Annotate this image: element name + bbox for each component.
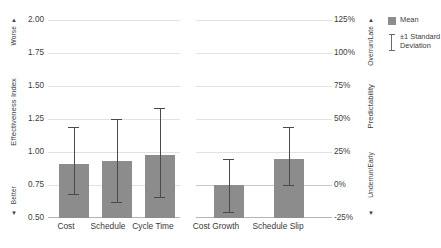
left-tick-0-50: 0.50: [14, 213, 44, 222]
left-tick-0-75: 0.75: [14, 180, 44, 189]
left-tick-1-00: 1.00: [14, 147, 44, 156]
errorbar-cap-top-cost-growth: [223, 159, 234, 160]
right-tick-75: 75%: [334, 81, 368, 90]
errorbar-cap-top-schedule: [111, 119, 122, 120]
errorbar-line-cost: [74, 127, 75, 194]
errorbar-line-cost-growth: [229, 159, 230, 213]
legend-item-std-deviation: ±1 Standard Deviation: [388, 33, 441, 53]
gridline-25pct: [196, 152, 332, 153]
gridline-75pct: [196, 86, 332, 87]
right-tick-100: 100%: [334, 48, 368, 57]
errorbar-line-cycle-time: [160, 108, 161, 197]
right-axis-group: 125% 100% 75% 50% 25% 0% -25% ▲ Overrun/…: [334, 0, 388, 248]
chart-figure: ▲ Worse Effectiveness Index Better ▼ 2.0…: [0, 0, 441, 248]
right-tick-neg25: -25%: [334, 213, 368, 222]
gridline-50pct: [196, 119, 332, 120]
left-tick-1-50: 1.50: [14, 81, 44, 90]
legend-mean-swatch-icon: [388, 17, 396, 25]
errorbar-cap-top-cycle-time: [154, 108, 165, 109]
legend-errorbar-icon: [391, 34, 392, 51]
category-label-cost-growth: Cost Growth: [188, 221, 244, 231]
left-tick-1-75: 1.75: [14, 48, 44, 57]
legend-mean-label: Mean: [400, 16, 441, 25]
right-axis-overrun-label: Overrun/Late: [367, 26, 374, 66]
gridline-125pct: [196, 20, 332, 21]
legend-item-mean: Mean: [388, 16, 441, 26]
category-label-schedule: Schedule: [85, 221, 131, 231]
gridline-1-50: [48, 86, 180, 87]
category-label-cycle-time: Cycle Time: [128, 221, 178, 231]
gridline-2-00: [48, 20, 180, 21]
left-tick-2-00: 2.00: [14, 15, 44, 24]
left-axis-group: ▲ Worse Effectiveness Index Better ▼ 2.0…: [0, 0, 48, 248]
predictability-plot-area: [196, 20, 332, 218]
errorbar-cap-bottom-schedule-slip: [283, 185, 294, 186]
right-axis-underrun-label: Underrun/Early: [367, 152, 374, 198]
category-label-schedule-slip: Schedule Slip: [248, 221, 308, 231]
right-axis-title: Predictability: [366, 84, 375, 128]
category-label-cost: Cost: [44, 221, 88, 231]
errorbar-cap-bottom-cost-growth: [223, 212, 234, 213]
right-tick-0: 0%: [334, 180, 368, 189]
right-tick-125: 125%: [334, 15, 368, 24]
right-tick-25: 25%: [334, 147, 368, 156]
errorbar-line-schedule: [117, 119, 118, 202]
right-axis-up-arrow: ▲: [368, 17, 374, 23]
left-tick-1-25: 1.25: [14, 114, 44, 123]
legend-std-label-line2: Deviation: [400, 42, 441, 51]
errorbar-cap-bottom-schedule: [111, 202, 122, 203]
left-axis-worse-label: Worse: [10, 26, 17, 45]
errorbar-cap-bottom-cycle-time: [154, 197, 165, 198]
gridline-100pct: [196, 53, 332, 54]
chart-legend: Mean ±1 Standard Deviation: [388, 16, 441, 60]
gridline-1-75: [48, 53, 180, 54]
right-axis-down-arrow: ▼: [368, 210, 374, 216]
effectiveness-plot-area: [48, 20, 180, 218]
errorbar-cap-top-schedule-slip: [283, 127, 294, 128]
errorbar-cap-bottom-cost: [68, 194, 79, 195]
errorbar-cap-top-cost: [68, 127, 79, 128]
right-tick-50: 50%: [334, 114, 368, 123]
errorbar-line-schedule-slip: [289, 127, 290, 185]
